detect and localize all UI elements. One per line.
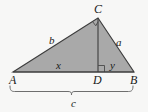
triangle-diagram-svg bbox=[0, 0, 148, 112]
segment-label-a: a bbox=[116, 37, 122, 48]
vertex-label-c: C bbox=[94, 3, 102, 15]
vertex-label-a: A bbox=[9, 74, 16, 86]
vertex-label-d: D bbox=[93, 74, 102, 86]
vertex-label-b: B bbox=[130, 74, 137, 86]
segment-label-b: b bbox=[49, 35, 55, 46]
brace-under-ab-icon bbox=[10, 86, 133, 95]
segment-label-y: y bbox=[110, 60, 115, 71]
segment-label-x: x bbox=[56, 60, 61, 71]
geometry-figure: A B C D b a x y c bbox=[0, 0, 148, 112]
segment-label-c: c bbox=[71, 98, 76, 109]
